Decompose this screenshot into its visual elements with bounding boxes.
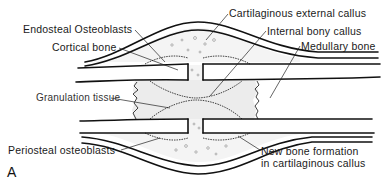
label-internal-bony-callus: Internal bony callus	[267, 25, 361, 37]
gap-callus-lower	[189, 119, 202, 133]
label-cortical-bone: Cortical bone	[52, 41, 116, 53]
upper-cortex-bottom-right	[203, 77, 380, 80]
label-medullary-bone: Medullary bone	[301, 40, 376, 52]
label-cartilaginous-external-callus: Cartilaginous external callus	[229, 7, 366, 19]
label-new-bone-formation-line2: in cartilaginous callus	[261, 157, 365, 169]
granulation-tissue-region	[132, 80, 258, 120]
label-granulation-tissue: Granulation tissue	[36, 92, 120, 103]
label-periosteal-osteoblasts: Periosteal osteoblasts	[8, 144, 115, 156]
gap-callus-upper	[189, 65, 202, 80]
label-new-bone-formation-line1: New bone formation	[261, 145, 359, 157]
label-endosteal-osteoblasts: Endosteal Osteoblasts	[23, 23, 132, 35]
fracture-healing-diagram: Endosteal Osteoblasts Cortical bone Cart…	[0, 0, 383, 181]
panel-label: A	[7, 164, 17, 180]
